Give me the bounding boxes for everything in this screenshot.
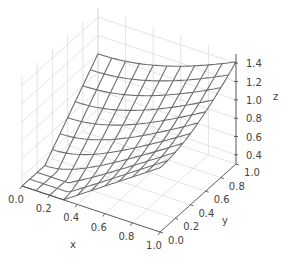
wire-line-x — [90, 70, 228, 81]
axis-panes — [22, 8, 236, 232]
wire-line-x — [98, 54, 236, 66]
y-tick-mark — [160, 232, 163, 233]
x-tick-label: 0.0 — [8, 194, 24, 205]
z-tick-label: 0.8 — [246, 113, 262, 124]
back-pane-gridline — [98, 17, 236, 63]
y-axis-label: y — [222, 215, 228, 226]
x-tick-mark — [130, 223, 132, 226]
y-tick-label: 0.6 — [214, 194, 230, 205]
left-pane-gridline — [22, 36, 98, 104]
x-tick-label: 0.6 — [91, 222, 107, 233]
z-tick-label: 0.6 — [246, 132, 262, 143]
y-tick-label: 0.0 — [168, 235, 184, 246]
x-tick-label: 0.4 — [63, 212, 79, 223]
x-tick-mark — [75, 204, 77, 207]
wireframe-3d-plot: 0.00.20.40.60.81.00.00.20.40.60.81.00.40… — [0, 0, 290, 262]
y-tick-mark — [221, 178, 224, 179]
left-pane-gridline — [22, 91, 98, 159]
left-pane-gridline — [22, 17, 98, 85]
y-tick-mark — [175, 218, 178, 219]
x-tick-mark — [103, 214, 105, 217]
z-axis-label: z — [273, 91, 278, 102]
left-pane-gridline — [22, 72, 98, 140]
y-tick-mark — [236, 164, 239, 165]
z-tick-label: 0.4 — [246, 150, 262, 161]
y-tick-mark — [190, 205, 193, 206]
wire-line-x — [75, 100, 213, 110]
wire-line-x — [83, 86, 221, 96]
surface-wireframe — [22, 54, 236, 200]
z-tick-label: 1.0 — [246, 95, 262, 106]
y-tick-mark — [206, 191, 209, 192]
x-tick-mark — [48, 195, 50, 198]
y-tick-label: 1.0 — [244, 167, 260, 178]
z-tick-label: 1.2 — [246, 77, 262, 88]
y-tick-label: 0.4 — [198, 208, 214, 219]
y-tick-label: 0.8 — [229, 181, 245, 192]
y-tick-label: 0.2 — [183, 221, 199, 232]
x-tick-label: 1.0 — [146, 240, 162, 251]
x-tick-mark — [20, 186, 22, 189]
x-axis-label: x — [70, 239, 76, 250]
wire-line-y — [105, 66, 181, 186]
wire-line-y — [132, 65, 208, 177]
z-tick-label: 1.4 — [246, 58, 262, 69]
floor-gridline — [105, 146, 181, 214]
x-tick-label: 0.2 — [36, 203, 52, 214]
x-tick-mark — [158, 232, 160, 235]
x-tick-label: 0.8 — [118, 231, 134, 242]
